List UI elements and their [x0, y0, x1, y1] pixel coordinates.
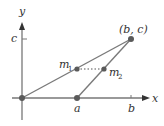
m2-point: [101, 66, 106, 71]
a-tick-label: a: [74, 102, 81, 115]
m2-subscript: 2: [118, 73, 122, 81]
triangle-midpoint-diagram: y x c a b (b, c) m 1 m 2: [0, 0, 164, 126]
m1-subscript: 1: [68, 65, 72, 73]
b-tick-label: b: [128, 102, 135, 115]
bc-point-label: (b, c): [119, 23, 148, 36]
a-point: [74, 95, 80, 101]
x-axis-arrow-icon: [142, 95, 150, 101]
y-axis-label: y: [18, 5, 26, 18]
m1-point: [74, 66, 79, 71]
bc-point: [128, 36, 134, 42]
y-axis-arrow-icon: [19, 22, 25, 30]
origin-point: [19, 95, 25, 101]
c-tick-label: c: [11, 32, 17, 45]
x-axis-label: x: [152, 92, 159, 105]
